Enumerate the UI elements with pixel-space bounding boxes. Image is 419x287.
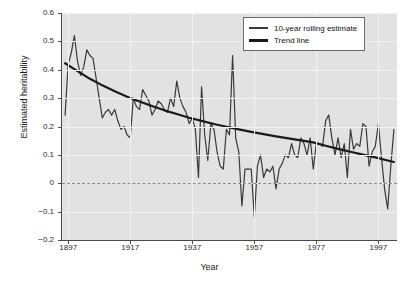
x-tick-mark bbox=[130, 241, 131, 244]
gridline-horizontal bbox=[62, 155, 397, 156]
y-tick-mark bbox=[58, 212, 61, 213]
y-tick-label: 0.6 bbox=[28, 9, 54, 17]
y-tick-label: 0.1 bbox=[28, 151, 54, 159]
chart-figure: 0.60.50.40.30.20.10−0.1−0.2 189719171937… bbox=[0, 0, 419, 287]
gridline-horizontal bbox=[62, 212, 397, 213]
x-tick-mark bbox=[192, 241, 193, 244]
y-tick-mark bbox=[58, 240, 61, 241]
legend-swatch-rolling bbox=[249, 27, 268, 29]
x-tick-label: 1937 bbox=[172, 244, 212, 252]
y-axis-title: Estimated heritability bbox=[19, 27, 29, 167]
y-tick-label: 0.2 bbox=[28, 123, 54, 131]
y-tick-label: 0.3 bbox=[28, 94, 54, 102]
gridline-vertical bbox=[68, 13, 69, 240]
x-tick-label: 1897 bbox=[48, 244, 88, 252]
y-tick-mark bbox=[58, 41, 61, 42]
legend-label-rolling: 10-year rolling estimate bbox=[274, 24, 357, 33]
y-tick-mark bbox=[58, 183, 61, 184]
y-tick-label: 0.4 bbox=[28, 66, 54, 74]
y-tick-label: 0 bbox=[28, 179, 54, 187]
x-axis-line bbox=[61, 240, 397, 241]
x-tick-mark bbox=[68, 241, 69, 244]
zero-reference-line bbox=[62, 183, 397, 184]
legend-item-trend: Trend line bbox=[249, 34, 357, 46]
gridline-vertical bbox=[192, 13, 193, 240]
x-tick-mark bbox=[254, 241, 255, 244]
y-tick-label: 0.5 bbox=[28, 37, 54, 45]
y-tick-label: −0.1 bbox=[28, 208, 54, 216]
x-tick-label: 1997 bbox=[358, 244, 398, 252]
chart-legend: 10-year rolling estimate Trend line bbox=[243, 17, 365, 51]
legend-label-trend: Trend line bbox=[274, 36, 309, 45]
y-axis-line bbox=[61, 13, 62, 240]
gridline-horizontal bbox=[62, 127, 397, 128]
gridline-horizontal bbox=[62, 70, 397, 71]
x-tick-label: 1917 bbox=[110, 244, 150, 252]
gridline-vertical bbox=[378, 13, 379, 240]
x-tick-label: 1957 bbox=[234, 244, 274, 252]
x-axis-title: Year bbox=[0, 262, 419, 272]
y-tick-mark bbox=[58, 70, 61, 71]
y-tick-mark bbox=[58, 127, 61, 128]
y-tick-label: −0.2 bbox=[28, 236, 54, 244]
gridline-horizontal bbox=[62, 13, 397, 14]
gridline-horizontal bbox=[62, 98, 397, 99]
y-tick-mark bbox=[58, 13, 61, 14]
legend-item-rolling: 10-year rolling estimate bbox=[249, 22, 357, 34]
gridline-vertical bbox=[130, 13, 131, 240]
x-tick-label: 1977 bbox=[296, 244, 336, 252]
legend-swatch-trend bbox=[249, 39, 268, 42]
y-tick-mark bbox=[58, 98, 61, 99]
y-tick-mark bbox=[58, 155, 61, 156]
x-tick-mark bbox=[316, 241, 317, 244]
x-tick-mark bbox=[378, 241, 379, 244]
